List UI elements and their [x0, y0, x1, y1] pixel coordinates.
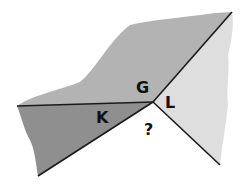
label-k: K: [96, 108, 109, 127]
label-g: G: [136, 78, 149, 97]
region-k: [17, 102, 153, 176]
label-unknown: ?: [144, 120, 153, 139]
cross-cutting-diagram: G K L ?: [0, 0, 243, 191]
label-l: L: [165, 93, 175, 112]
